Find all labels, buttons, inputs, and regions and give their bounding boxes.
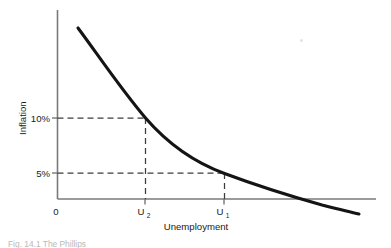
scan-speck-artifact	[300, 39, 303, 42]
figure-caption: Fig. 14.1 The Phillips	[8, 239, 86, 248]
x-axis-label: Unemployment	[164, 221, 229, 232]
figure-container: Inflation 10% 5% 0 U 2 U 1 Unemployment …	[0, 0, 391, 248]
y-tick-label-5pct: 5%	[36, 168, 50, 179]
origin-label: 0	[53, 206, 58, 217]
phillips-curve-chart: Inflation 10% 5% 0 U 2 U 1 Unemployment …	[0, 0, 391, 248]
phillips-curve-line	[78, 28, 359, 214]
y-axis-label: Inflation	[17, 101, 28, 135]
x-tick-label-u1-subscript: 1	[226, 212, 230, 219]
x-tick-label-u1-base: U	[217, 206, 224, 217]
x-tick-label-u2-base: U	[138, 206, 145, 217]
x-tick-label-u2-subscript: 2	[147, 212, 151, 219]
y-tick-label-10pct: 10%	[31, 113, 51, 124]
